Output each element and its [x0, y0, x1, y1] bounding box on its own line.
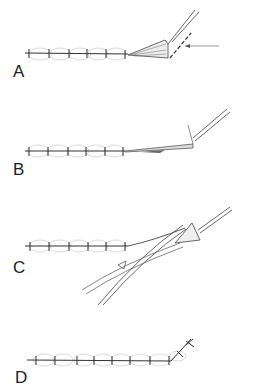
- panel-a: A: [0, 0, 266, 100]
- suture-illustration-c: [0, 195, 266, 305]
- panel-b: B: [0, 100, 266, 195]
- panel-label-a: A: [13, 62, 24, 82]
- panel-c: C: [0, 195, 266, 305]
- suture-illustration-a: [0, 0, 266, 100]
- panel-label-c: C: [13, 258, 25, 278]
- suture-illustration-d: [0, 305, 266, 392]
- panel-label-b: B: [13, 160, 24, 180]
- panel-label-d: D: [15, 368, 27, 388]
- panel-d: D: [0, 305, 266, 392]
- suture-illustration-b: [0, 100, 266, 195]
